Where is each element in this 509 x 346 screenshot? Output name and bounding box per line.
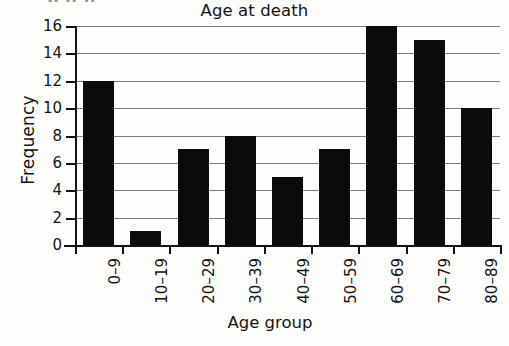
y-axis-tick-label: 12 <box>30 72 62 90</box>
y-axis-tick <box>66 136 76 138</box>
chart-title: Age at death <box>0 1 509 20</box>
plot-area <box>75 26 500 245</box>
x-axis-tick <box>75 245 77 254</box>
y-axis-tick <box>66 190 76 192</box>
bar <box>461 108 492 245</box>
x-axis-tick <box>406 245 408 254</box>
y-axis-tick-label: 16 <box>30 17 62 35</box>
y-axis-tick <box>66 53 76 55</box>
bar <box>319 149 350 245</box>
bar <box>272 177 303 245</box>
y-axis-tick <box>66 26 76 28</box>
y-axis-tick <box>66 163 76 165</box>
x-axis-tick <box>453 245 455 254</box>
bar <box>178 149 209 245</box>
bar <box>366 26 397 245</box>
gridline <box>75 26 500 27</box>
y-axis-tick <box>66 218 76 220</box>
y-axis-tick-label: 14 <box>30 44 62 62</box>
x-axis-category-label: 80–89 <box>483 258 501 328</box>
chart-figure: g g p Age at death Frequency 02468101214… <box>0 0 509 346</box>
x-axis-tick <box>264 245 266 254</box>
bar <box>130 231 161 245</box>
x-axis-tick <box>500 245 502 254</box>
x-axis-tick <box>358 245 360 254</box>
y-axis-tick-label: 4 <box>30 181 62 199</box>
y-axis-tick-label: 6 <box>30 154 62 172</box>
x-axis-title: Age group <box>60 313 480 332</box>
bar <box>225 136 256 246</box>
y-axis-tick <box>66 81 76 83</box>
y-axis-tick-label: 0 <box>30 236 62 254</box>
y-axis-tick <box>66 108 76 110</box>
x-axis-tick <box>217 245 219 254</box>
x-axis-tick <box>311 245 313 254</box>
bar <box>83 81 114 245</box>
y-axis-tick-label: 10 <box>30 99 62 117</box>
bar <box>414 40 445 245</box>
x-axis-tick <box>169 245 171 254</box>
y-axis-tick-label: 8 <box>30 127 62 145</box>
x-axis-line <box>64 245 500 247</box>
y-axis-tick-label: 2 <box>30 209 62 227</box>
x-axis-tick <box>122 245 124 254</box>
